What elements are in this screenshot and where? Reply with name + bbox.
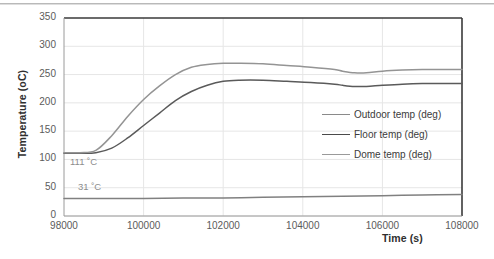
- y-tick-label: 250: [26, 68, 56, 79]
- y-tick-label: 0: [26, 209, 56, 220]
- legend-item-label: Outdoor temp (deg): [354, 109, 441, 120]
- x-tick-label: 106000: [352, 220, 412, 231]
- legend-item-label: Dome temp (deg): [354, 149, 432, 160]
- y-tick-label: 200: [26, 96, 56, 107]
- legend-item[interactable]: Outdoor temp (deg): [322, 108, 441, 120]
- chart-legend: Outdoor temp (deg)Floor temp (deg)Dome t…: [322, 108, 441, 160]
- y-tick-label: 150: [26, 124, 56, 135]
- x-tick-label: 98000: [34, 220, 94, 231]
- y-tick-label: 300: [26, 39, 56, 50]
- y-tick-label: 100: [26, 152, 56, 163]
- legend-item[interactable]: Floor temp (deg): [322, 128, 441, 140]
- legend-swatch-line-icon: [322, 134, 350, 135]
- chart-annotation: 111 ˚C: [70, 156, 97, 167]
- x-tick-label: 104000: [273, 220, 333, 231]
- chart-annotation: 31 ˚C: [78, 181, 101, 192]
- legend-swatch-line-icon: [322, 154, 350, 155]
- y-axis-title: Temperature (oC): [16, 54, 28, 174]
- chart-figure: 050100150200250300350 980001000001020001…: [0, 0, 494, 259]
- x-tick-label: 102000: [193, 220, 253, 231]
- legend-item-label: Floor temp (deg): [354, 129, 428, 140]
- legend-swatch-line-icon: [322, 114, 350, 115]
- y-tick-label: 350: [26, 11, 56, 22]
- y-tick-label: 50: [26, 181, 56, 192]
- x-axis-title: Time (s): [382, 232, 423, 244]
- x-tick-label: 108000: [432, 220, 492, 231]
- x-tick-label: 100000: [114, 220, 174, 231]
- legend-item[interactable]: Dome temp (deg): [322, 148, 441, 160]
